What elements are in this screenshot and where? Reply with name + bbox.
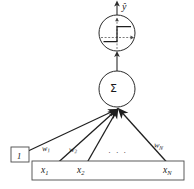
edge-wN	[120, 111, 172, 168]
activation-node	[99, 15, 135, 51]
edge-w1	[52, 111, 115, 168]
perceptron-diagram: ŷ Σ 1 w1 w2 wN · · · x1 x2 xN	[0, 0, 194, 189]
bias-value-label: 1	[17, 152, 21, 161]
weight-label-w2: w2	[69, 146, 78, 155]
input-label-x1: x1	[41, 166, 48, 176]
output-label: ŷ	[122, 2, 126, 12]
weight-sub-w2: 2	[74, 148, 77, 154]
weights-ellipsis: · · ·	[108, 148, 128, 157]
input-sub-x2: 2	[81, 169, 84, 176]
weight-sub-w1: 1	[47, 147, 50, 153]
weight-label-w1: w1	[42, 145, 51, 154]
edge-w2	[84, 111, 116, 168]
input-label-x2: x2	[77, 166, 84, 176]
summation-symbol: Σ	[110, 83, 117, 94]
input-sub-xn: N	[167, 169, 171, 176]
summation-node	[99, 71, 135, 107]
weight-edges	[26, 111, 172, 169]
input-label-xn: xN	[163, 166, 172, 176]
input-vector-bar	[32, 161, 184, 180]
diagram-canvas	[0, 0, 194, 189]
input-sub-x1: 1	[45, 169, 48, 176]
weight-label-wn: wN	[153, 141, 163, 151]
